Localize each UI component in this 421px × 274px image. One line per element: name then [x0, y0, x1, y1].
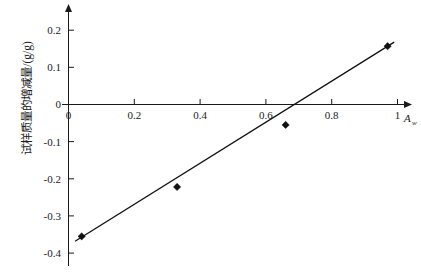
y-tick-label-1: 0.1 — [47, 61, 61, 73]
x-tick-label-2: 0.4 — [193, 109, 207, 121]
x-tick-label-1: 0.2 — [127, 109, 141, 121]
data-point-marker — [173, 183, 180, 190]
chart-figure: 0 0.2 0.4 0.6 0.8 1 A w 0.2 0.1 0 -0.1 -… — [0, 0, 421, 274]
y-tick-label-6: -0.4 — [44, 247, 62, 259]
y-axis-label-wrap: 试样质量的增减量/(g/g) — [15, 0, 37, 223]
y-tick-label-2: 0 — [56, 98, 62, 110]
y-tick-label-0: 0.2 — [47, 24, 61, 36]
data-point-marker — [282, 121, 289, 128]
x-tick-label-5: 1 — [395, 109, 401, 121]
y-axis-label: 试样质量的增减量/(g/g) — [18, 41, 34, 155]
x-axis-label: A — [403, 112, 411, 124]
x-axis-label-subscript: w — [412, 119, 417, 127]
y-tick-label-5: -0.3 — [44, 210, 62, 222]
y-tick-label-3: -0.1 — [44, 136, 61, 148]
fit-line — [75, 42, 394, 241]
x-tick-label-4: 0.8 — [325, 109, 339, 121]
y-tick-label-4: -0.2 — [44, 173, 61, 185]
y-axis-arrow-icon — [65, 4, 72, 12]
x-axis-arrow-icon — [404, 101, 412, 108]
data-point-marker — [384, 43, 391, 50]
x-axis: 0 0.2 0.4 0.6 0.8 1 A w — [62, 99, 417, 127]
plot-area: 0 0.2 0.4 0.6 0.8 1 A w 0.2 0.1 0 -0.1 -… — [0, 0, 421, 274]
y-axis: 0.2 0.1 0 -0.1 -0.2 -0.3 -0.4 — [44, 4, 74, 266]
